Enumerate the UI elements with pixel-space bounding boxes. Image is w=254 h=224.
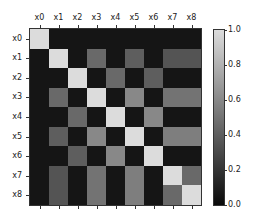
cell-x0-x7 <box>163 29 182 49</box>
cell-x2-x5 <box>125 68 144 88</box>
colorbar-tick-mark <box>224 100 227 101</box>
cell-x7-x5 <box>125 166 144 186</box>
heatmap-grid <box>30 29 201 205</box>
cell-x4-x4 <box>106 107 125 127</box>
cell-x8-x1 <box>49 185 68 205</box>
x-tick-mark <box>173 25 174 29</box>
cell-x7-x7 <box>163 166 182 186</box>
cell-x7-x4 <box>106 166 125 186</box>
cell-x6-x1 <box>49 146 68 166</box>
cell-x0-x8 <box>182 29 201 49</box>
cell-x6-x3 <box>87 146 106 166</box>
cell-x4-x2 <box>68 107 87 127</box>
cell-x3-x6 <box>144 88 163 108</box>
cell-x6-x2 <box>68 146 87 166</box>
cell-x2-x7 <box>163 68 182 88</box>
cell-x1-x4 <box>106 49 125 69</box>
cell-x8-x8 <box>182 185 201 205</box>
cell-x8-x2 <box>68 185 87 205</box>
cell-x3-x7 <box>163 88 182 108</box>
y-tick-label: x8 <box>0 190 22 200</box>
cell-x5-x8 <box>182 127 201 147</box>
colorbar-tick-label: 0.4 <box>228 130 241 140</box>
cell-x7-x3 <box>87 166 106 186</box>
cell-x3-x4 <box>106 88 125 108</box>
x-tick-mark <box>135 25 136 29</box>
x-tick-label: x7 <box>163 13 182 23</box>
colorbar-tick-mark <box>224 65 227 66</box>
cell-x2-x4 <box>106 68 125 88</box>
colorbar-tick-label: 0.0 <box>228 200 241 210</box>
cell-x1-x8 <box>182 49 201 69</box>
colorbar-tick-label: 0.8 <box>228 60 241 70</box>
colorbar-tick-mark <box>224 135 227 136</box>
cell-x8-x6 <box>144 185 163 205</box>
cell-x7-x8 <box>182 166 201 186</box>
cell-x6-x5 <box>125 146 144 166</box>
x-tick-mark <box>59 25 60 29</box>
cell-x1-x1 <box>49 49 68 69</box>
cell-x4-x8 <box>182 107 201 127</box>
y-tick-label: x2 <box>0 73 22 83</box>
cell-x3-x2 <box>68 88 87 108</box>
x-tick-mark <box>97 205 98 209</box>
x-tick-mark <box>78 205 79 209</box>
y-tick-label: x3 <box>0 92 22 102</box>
cell-x8-x3 <box>87 185 106 205</box>
colorbar-tick-label: 0.2 <box>228 165 241 175</box>
cell-x6-x7 <box>163 146 182 166</box>
x-tick-label: x2 <box>68 13 87 23</box>
y-tick-mark <box>26 117 30 118</box>
cell-x1-x2 <box>68 49 87 69</box>
cell-x7-x0 <box>30 166 49 186</box>
cell-x5-x4 <box>106 127 125 147</box>
x-tick-label: x3 <box>87 13 106 23</box>
y-tick-mark <box>26 156 30 157</box>
cell-x6-x8 <box>182 146 201 166</box>
x-tick-mark <box>154 205 155 209</box>
cell-x1-x3 <box>87 49 106 69</box>
x-tick-mark <box>154 25 155 29</box>
cell-x5-x3 <box>87 127 106 147</box>
cell-x2-x8 <box>182 68 201 88</box>
cell-x1-x5 <box>125 49 144 69</box>
cell-x5-x1 <box>49 127 68 147</box>
x-tick-label: x1 <box>49 13 68 23</box>
cell-x5-x0 <box>30 127 49 147</box>
cell-x5-x2 <box>68 127 87 147</box>
y-tick-mark <box>26 78 30 79</box>
cell-x1-x6 <box>144 49 163 69</box>
cell-x3-x0 <box>30 88 49 108</box>
cell-x0-x4 <box>106 29 125 49</box>
cell-x7-x6 <box>144 166 163 186</box>
y-tick-mark <box>26 176 30 177</box>
x-tick-mark <box>192 205 193 209</box>
cell-x4-x5 <box>125 107 144 127</box>
cell-x8-x0 <box>30 185 49 205</box>
cell-x5-x6 <box>144 127 163 147</box>
cell-x6-x0 <box>30 146 49 166</box>
cell-x4-x7 <box>163 107 182 127</box>
cell-x2-x1 <box>49 68 68 88</box>
colorbar-tick-label: 1.0 <box>228 25 241 35</box>
cell-x2-x6 <box>144 68 163 88</box>
y-tick-label: x4 <box>0 112 22 122</box>
x-tick-mark <box>40 25 41 29</box>
x-tick-label: x4 <box>106 13 125 23</box>
cell-x0-x3 <box>87 29 106 49</box>
cell-x5-x5 <box>125 127 144 147</box>
x-tick-label: x8 <box>182 13 201 23</box>
cell-x3-x8 <box>182 88 201 108</box>
cell-x0-x5 <box>125 29 144 49</box>
cell-x8-x7 <box>163 185 182 205</box>
cell-x4-x3 <box>87 107 106 127</box>
x-tick-label: x0 <box>30 13 49 23</box>
y-tick-label: x1 <box>0 53 22 63</box>
y-tick-label: x6 <box>0 151 22 161</box>
heatmap-chart: x0x1x2x3x4x5x6x7x8 x0x1x2x3x4x5x6x7x8 0.… <box>0 0 254 224</box>
cell-x2-x0 <box>30 68 49 88</box>
cell-x4-x6 <box>144 107 163 127</box>
y-tick-label: x7 <box>0 171 22 181</box>
cell-x0-x0 <box>30 29 49 49</box>
cell-x1-x7 <box>163 49 182 69</box>
